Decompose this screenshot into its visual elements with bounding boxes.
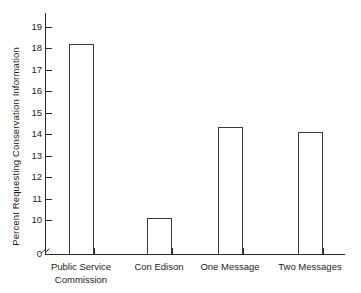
y-tick-mark <box>46 134 52 135</box>
x-tick-mark <box>172 248 173 255</box>
x-axis-line <box>45 254 345 255</box>
y-tick-label: 12 <box>22 172 42 182</box>
y-tick-label: 17 <box>22 65 42 75</box>
y-tick-label-text: 16 <box>22 86 42 96</box>
y-tick-label: 19 <box>22 22 42 32</box>
y-tick-label-text: 11 <box>22 194 42 204</box>
y-tick-label: 13 <box>22 151 42 161</box>
axis-break-icon <box>41 242 50 252</box>
y-tick-mark <box>46 27 52 28</box>
y-tick-label: 15 <box>22 108 42 118</box>
y-tick-label-text: 12 <box>22 172 42 182</box>
y-tick-mark <box>46 113 52 114</box>
y-tick-label: 14 <box>22 129 42 139</box>
y-tick-label-text: 19 <box>22 22 42 32</box>
y-tick-label-text: 0 <box>22 249 42 259</box>
x-tick-mark <box>94 248 95 255</box>
y-tick-mark <box>46 70 52 71</box>
bar-chart: Percent Requesting Conservation Informat… <box>0 0 361 293</box>
y-tick-mark <box>46 91 52 92</box>
y-tick-label-text: 14 <box>22 129 42 139</box>
bar <box>298 132 323 254</box>
bar <box>147 218 172 254</box>
y-tick-label-text: 10 <box>22 215 42 225</box>
y-tick-mark <box>46 220 52 221</box>
bar <box>69 44 94 254</box>
y-tick-mark <box>46 48 52 49</box>
y-tick-label-text: 18 <box>22 43 42 53</box>
y-tick-label-text: 13 <box>22 151 42 161</box>
y-tick-mark <box>46 156 52 157</box>
x-axis-category-label: Two Messages <box>260 261 360 274</box>
y-tick-label: 0 <box>22 249 42 259</box>
y-tick-label: 16 <box>22 86 42 96</box>
x-tick-mark <box>323 248 324 255</box>
y-tick-label: 10 <box>22 215 42 225</box>
y-tick-mark <box>46 177 52 178</box>
x-tick-mark <box>243 248 244 255</box>
bar <box>218 127 243 254</box>
y-tick-label-text: 17 <box>22 65 42 75</box>
y-tick-label-text: 15 <box>22 108 42 118</box>
y-tick-mark <box>46 199 52 200</box>
y-tick-label: 11 <box>22 194 42 204</box>
y-tick-label: 18 <box>22 43 42 53</box>
